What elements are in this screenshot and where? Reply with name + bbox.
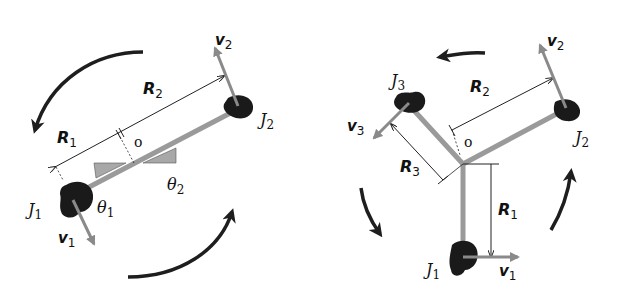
velocity-v3-arrow-icon [374,103,409,138]
right-three-body-diagram: o R2 R3 R1 J3 J2 J1 v3 v2 v1 [347,32,589,283]
label-v1-right: v1 [499,262,516,283]
label-center-right: o [464,134,472,150]
label-r2-right: R2 [470,77,490,99]
label-j2-left: J2 [257,110,274,132]
rotation-arrow-bottom-icon [128,212,232,277]
left-two-body-diagram: R1 R2 o θ2 θ1 J1 J2 v1 v2 [25,31,274,277]
mass-j1-left [60,182,93,218]
dimension-line-r1-r2 [55,76,224,167]
label-v1-left: v1 [58,229,75,250]
diagram-canvas: R1 R2 o θ2 θ1 J1 J2 v1 v2 [0,0,618,303]
label-j3-right: J3 [388,71,405,93]
label-theta2: θ2 [167,175,184,197]
dimension-link-r3 [443,164,463,180]
label-j2-right: J2 [572,128,589,150]
label-j1-right: J1 [423,260,440,282]
label-r1-left: R1 [57,128,77,150]
label-theta1: θ1 [97,198,114,220]
rod-j3 [409,105,463,164]
label-r1-right: R1 [498,200,518,222]
label-j1-left: J1 [25,200,42,222]
velocity-v2-arrow-icon [540,45,566,108]
rotation-arrow-left-icon [361,188,380,234]
rotation-arrow-top-icon [440,53,485,57]
rotation-arrow-right-icon [551,172,571,230]
dimension-tick-left [56,167,63,180]
label-v3-right: v3 [347,117,364,138]
mass-j2-right [554,99,580,121]
label-v2-left: v2 [215,31,232,52]
label-v2-right: v2 [547,32,564,53]
velocity-v2-arrow-icon [215,48,238,106]
rod-left [72,108,240,196]
rotation-arrow-top-icon [35,52,143,130]
mass-j3-right [394,92,425,113]
label-center-left: o [134,134,142,150]
label-r2-left: R2 [143,79,163,101]
label-r3-right: R3 [400,157,420,179]
rod-j2 [463,110,564,164]
